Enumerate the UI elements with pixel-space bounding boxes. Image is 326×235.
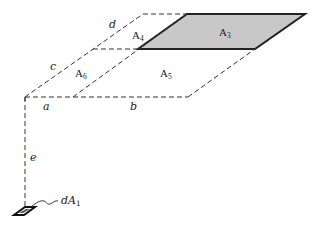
label-c: c bbox=[50, 61, 56, 72]
label-a4: A4 bbox=[132, 30, 144, 43]
label-d: d bbox=[109, 19, 116, 30]
edge-right-diagonal bbox=[188, 49, 255, 97]
label-a6: A6 bbox=[75, 68, 87, 81]
differential-area-da1 bbox=[14, 201, 58, 215]
label-b: b bbox=[130, 101, 137, 112]
diagram-canvas: a b c d e A4 A3 A6 A5 dA1 bbox=[0, 0, 326, 235]
edge-cd bbox=[25, 14, 143, 97]
label-a5: A5 bbox=[160, 68, 172, 81]
label-da1: dA1 bbox=[61, 195, 81, 208]
label-e: e bbox=[30, 152, 37, 163]
label-a3: A3 bbox=[219, 27, 231, 40]
diagram-svg bbox=[0, 0, 326, 235]
label-a: a bbox=[43, 101, 50, 112]
